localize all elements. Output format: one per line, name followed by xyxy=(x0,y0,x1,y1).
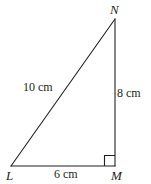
vertex-label-m: M xyxy=(111,169,122,182)
side-length-label-ln: 10 cm xyxy=(23,81,53,93)
geometry-figure: N L M 10 cm 8 cm 6 cm xyxy=(0,0,151,184)
vertex-label-n: N xyxy=(110,3,119,16)
vertex-label-l: L xyxy=(6,169,13,182)
right-angle-marker xyxy=(105,156,116,167)
side-length-label-lm: 6 cm xyxy=(54,168,78,180)
side-length-label-nm: 8 cm xyxy=(117,87,141,99)
